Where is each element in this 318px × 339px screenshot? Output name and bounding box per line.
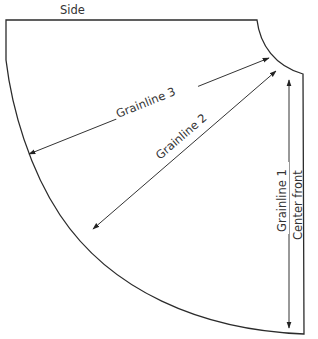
grainline-1-label: Grainline 1	[275, 169, 289, 232]
grainline-3-label: Grainline 3	[114, 84, 178, 120]
center-front-label: Center front	[291, 170, 305, 240]
grainline-2-arrow	[93, 71, 276, 229]
side-label: Side	[60, 3, 85, 17]
grainline-2-label: Grainline 2	[153, 111, 210, 163]
pattern-outline	[6, 20, 304, 334]
pattern-diagram: Side Grainline 3 Grainline 2 Grainline 1…	[0, 0, 318, 339]
